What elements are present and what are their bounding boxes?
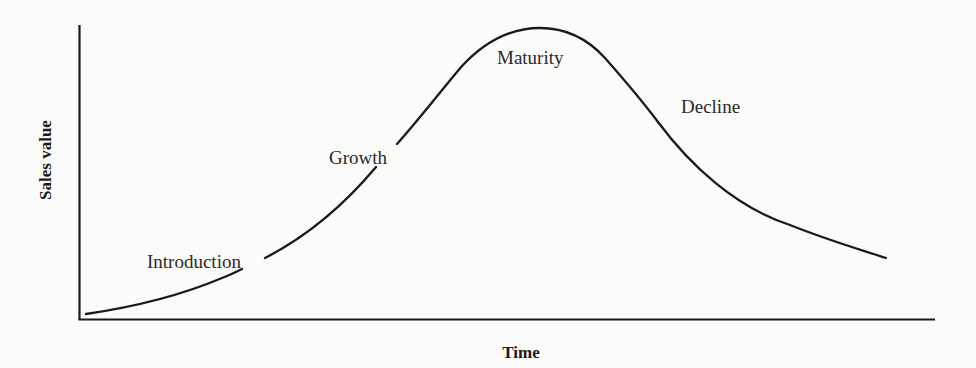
curve-segment-maturity [397, 28, 658, 144]
product-life-cycle-diagram: Introduction Growth Maturity Decline Sal… [0, 0, 976, 368]
curve-segment-introduction [86, 269, 242, 314]
stage-label-introduction: Introduction [147, 252, 241, 271]
plot-area [0, 0, 976, 368]
stage-label-decline: Decline [681, 97, 740, 116]
curve-segment-growth-lower [265, 167, 376, 258]
stage-label-growth: Growth [329, 148, 387, 167]
stage-label-maturity: Maturity [497, 48, 564, 67]
y-axis-title: Sales value [37, 120, 54, 200]
curve-segment-decline [658, 122, 886, 258]
x-axis-title: Time [502, 344, 539, 361]
